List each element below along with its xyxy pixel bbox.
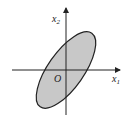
x2-axis-label: x2 — [51, 13, 60, 26]
origin-label: O — [54, 73, 61, 84]
ellipse-diagram: x2 x1 O — [0, 0, 131, 121]
x1-axis-label: x1 — [111, 73, 120, 86]
